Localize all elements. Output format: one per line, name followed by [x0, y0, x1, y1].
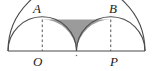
figure-canvas	[0, 0, 153, 71]
geometry-figure: A B O P	[0, 0, 153, 71]
point-label-B: B	[109, 2, 117, 15]
point-label-P: P	[110, 55, 118, 68]
center-tick-dot	[76, 55, 78, 57]
point-label-O: O	[33, 55, 42, 68]
point-label-A: A	[33, 2, 41, 15]
